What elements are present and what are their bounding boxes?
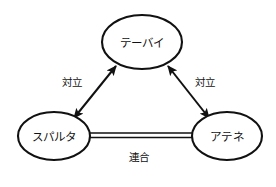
edge-thebes-athens: 対立 (168, 66, 215, 118)
relationship-diagram: 対立 対立 連合 テーバイ スパルタ アテネ (0, 0, 276, 187)
node-thebes-label: テーバイ (120, 36, 165, 50)
edge-sparta-thebes: 対立 (62, 66, 116, 118)
node-athens: アテネ (192, 112, 262, 160)
edge-label-thebes-athens: 対立 (195, 76, 216, 88)
edge-label-sparta-thebes: 対立 (62, 76, 83, 88)
node-sparta-label: スパルタ (32, 130, 77, 144)
edge-sparta-athens: 連合 (90, 133, 192, 163)
node-athens-label: アテネ (210, 130, 244, 144)
node-thebes: テーバイ (102, 15, 182, 69)
edge-sparta-thebes-arrow (74, 66, 116, 118)
edge-thebes-athens-arrow (168, 66, 209, 118)
node-sparta: スパルタ (18, 112, 90, 160)
diagram-canvas: 対立 対立 連合 テーバイ スパルタ アテネ (0, 0, 276, 187)
edge-label-sparta-athens: 連合 (129, 151, 150, 163)
